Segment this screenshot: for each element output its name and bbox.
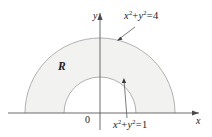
- shaded-region-r: [0, 0, 212, 137]
- x-axis-label: x: [196, 116, 200, 126]
- outer-eq-value: 4: [153, 10, 158, 21]
- y-axis-label: y: [93, 11, 97, 21]
- figure-canvas: [0, 0, 212, 137]
- inner-eq-value: 1: [142, 119, 147, 130]
- math-figure-annulus: x2+y2=4 x2+y2=1 y x R 0: [0, 0, 212, 137]
- origin-label: 0: [85, 115, 90, 125]
- region-label-r: R: [58, 61, 66, 73]
- inner-circle-equation-label: x2+y2=1: [113, 120, 147, 131]
- outer-circle-equation-label: x2+y2=4: [124, 11, 158, 22]
